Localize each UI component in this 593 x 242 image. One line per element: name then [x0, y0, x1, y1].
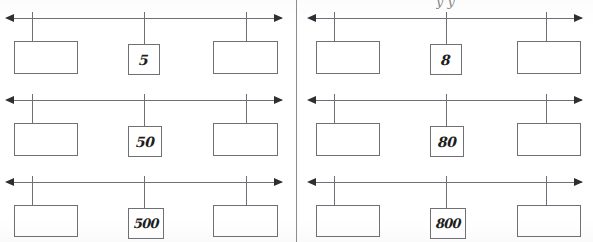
tick-stem-middle: [446, 12, 447, 44]
tick-stem-right: [546, 12, 547, 41]
number-line-row-2-left: 50: [0, 82, 296, 162]
value-label: 50: [135, 135, 154, 149]
answer-box-left[interactable]: [316, 41, 380, 74]
left-arrowhead-icon: [5, 14, 14, 22]
answer-box-right[interactable]: [213, 205, 278, 237]
tick-stem-left: [334, 94, 335, 123]
value-box-middle[interactable]: 800: [430, 208, 466, 239]
answer-box-right[interactable]: [213, 123, 278, 156]
answer-box-left[interactable]: [316, 123, 380, 156]
axis-line: [12, 100, 282, 101]
tick-stem-left: [32, 12, 33, 41]
right-arrowhead-icon: [274, 178, 283, 186]
answer-box-left[interactable]: [316, 205, 380, 237]
tick-stem-middle: [144, 12, 145, 44]
right-arrowhead-icon: [274, 96, 283, 104]
answer-box-right[interactable]: [517, 123, 581, 156]
axis-line: [12, 182, 282, 183]
value-label: 80: [437, 135, 456, 149]
tick-stem-middle: [144, 94, 145, 126]
tick-stem-left: [334, 176, 335, 205]
axis-line: [314, 182, 582, 183]
tick-stem-left: [32, 94, 33, 123]
left-arrowhead-icon: [307, 178, 316, 186]
value-box-middle[interactable]: 5: [128, 44, 160, 75]
axis-line: [12, 18, 282, 19]
tick-stem-middle: [446, 94, 447, 126]
answer-box-left[interactable]: [14, 205, 78, 237]
answer-box-left[interactable]: [14, 41, 78, 74]
number-line-row-1-right: 8: [302, 0, 593, 80]
tick-stem-right: [246, 176, 247, 205]
tick-stem-right: [546, 94, 547, 123]
answer-box-left[interactable]: [14, 123, 78, 156]
worksheet-canvas: y y 5 50: [0, 0, 593, 242]
panel-divider: [296, 0, 297, 242]
number-line-row-2-right: 80: [302, 82, 593, 162]
tick-stem-right: [546, 176, 547, 205]
tick-stem-left: [32, 176, 33, 205]
right-arrowhead-icon: [574, 14, 583, 22]
value-label: 500: [133, 217, 158, 230]
tick-stem-left: [334, 12, 335, 41]
tick-stem-right: [246, 12, 247, 41]
tick-stem-middle: [446, 176, 447, 208]
number-line-row-3-right: 800: [302, 164, 593, 242]
right-arrowhead-icon: [574, 96, 583, 104]
answer-box-right[interactable]: [213, 41, 278, 74]
value-box-middle[interactable]: 50: [128, 126, 162, 157]
answer-box-right[interactable]: [517, 205, 581, 237]
axis-line: [314, 18, 582, 19]
value-label: 8: [441, 53, 451, 67]
value-box-middle[interactable]: 80: [430, 126, 464, 157]
right-arrowhead-icon: [274, 14, 283, 22]
tick-stem-middle: [144, 176, 145, 208]
left-arrowhead-icon: [307, 96, 316, 104]
value-label: 5: [139, 53, 149, 67]
left-arrowhead-icon: [307, 14, 316, 22]
left-arrowhead-icon: [5, 178, 14, 186]
answer-box-right[interactable]: [517, 41, 581, 74]
value-label: 800: [435, 217, 460, 230]
value-box-middle[interactable]: 500: [128, 208, 164, 239]
right-column: 8 80 800: [302, 0, 593, 242]
value-box-middle[interactable]: 8: [430, 44, 462, 75]
right-arrowhead-icon: [574, 178, 583, 186]
left-arrowhead-icon: [5, 96, 14, 104]
left-column: 5 50 500: [0, 0, 296, 242]
axis-line: [314, 100, 582, 101]
number-line-row-1-left: 5: [0, 0, 296, 80]
tick-stem-right: [246, 94, 247, 123]
number-line-row-3-left: 500: [0, 164, 296, 242]
